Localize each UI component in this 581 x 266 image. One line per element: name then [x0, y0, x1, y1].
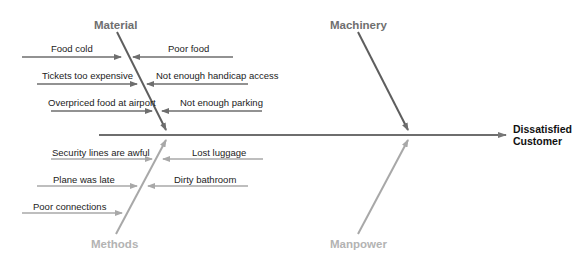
cause-label-lost-luggage: Lost luggage: [192, 147, 246, 158]
cause-label-poor-connections: Poor connections: [33, 201, 106, 212]
fishbone-diagram: [0, 0, 581, 266]
cause-label-parking: Not enough parking: [180, 97, 263, 108]
effect-line-2: Customer: [513, 135, 572, 147]
effect-line-1: Dissatisfied: [513, 123, 572, 135]
cause-label-food-cold: Food cold: [51, 43, 93, 54]
machinery-bone-arrow: [358, 32, 408, 130]
cause-label-dirty-bathroom: Dirty bathroom: [174, 174, 236, 185]
cause-label-security: Security lines are awful: [52, 147, 150, 158]
cause-label-overpriced-food: Overpriced food at airport: [48, 97, 156, 108]
cause-label-poor-food: Poor food: [168, 43, 209, 54]
category-manpower: Manpower: [330, 238, 387, 251]
category-methods: Methods: [91, 238, 138, 251]
cause-label-handicap: Not enough handicap access: [156, 70, 279, 81]
cause-label-plane-late: Plane was late: [53, 174, 115, 185]
manpower-bone-arrow: [358, 140, 408, 234]
cause-label-tickets: Tickets too expensive: [42, 70, 133, 81]
category-material: Material: [94, 19, 137, 32]
material-bone-arrow: [117, 32, 166, 130]
effect-label: Dissatisfied Customer: [513, 123, 572, 147]
category-machinery: Machinery: [330, 19, 387, 32]
